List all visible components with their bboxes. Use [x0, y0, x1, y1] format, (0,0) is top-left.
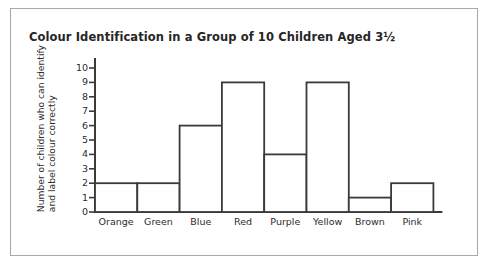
- bar-chart-svg: [0, 0, 491, 264]
- bar-pink[interactable]: [391, 183, 433, 212]
- bar-orange[interactable]: [95, 183, 137, 212]
- plot-area: [0, 0, 491, 264]
- chart-page: Colour Identification in a Group of 10 C…: [0, 0, 491, 264]
- bar-brown[interactable]: [349, 198, 391, 212]
- bar-red[interactable]: [222, 82, 264, 212]
- bar-blue[interactable]: [180, 126, 222, 212]
- bars-group: [95, 82, 433, 212]
- bar-yellow[interactable]: [307, 82, 349, 212]
- bar-purple[interactable]: [264, 154, 306, 212]
- bar-green[interactable]: [137, 183, 179, 212]
